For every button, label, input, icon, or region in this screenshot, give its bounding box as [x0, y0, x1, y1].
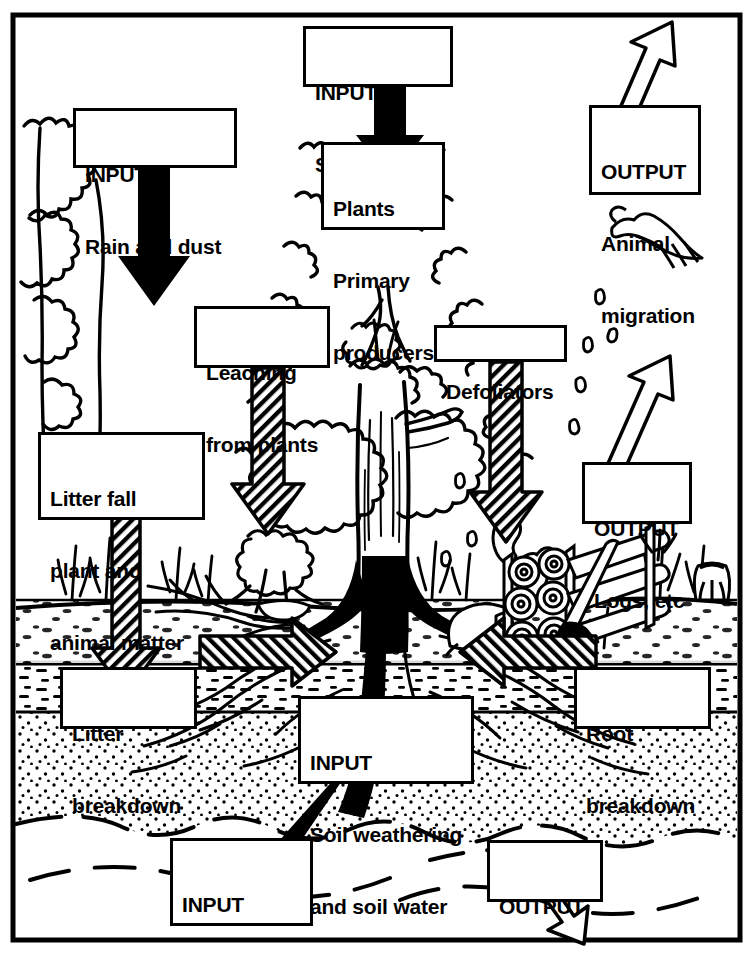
- box-input-soil-weathering[interactable]: INPUT Soil weathering and soil water: [298, 696, 474, 784]
- label-line-1: OUTPUT: [601, 160, 690, 184]
- label-line-2: breakdown: [586, 794, 700, 818]
- box-root-breakdown[interactable]: Root breakdown: [574, 667, 711, 729]
- label-line-1: INPUT: [315, 81, 442, 105]
- label-line-2: Primary: [333, 269, 434, 293]
- tree-stump: [694, 563, 729, 600]
- label-line-1: Leaching: [206, 361, 319, 385]
- label-line-1: Plants: [333, 197, 434, 221]
- label-line-1: INPUT: [310, 751, 463, 775]
- label-line-1: INPUT: [85, 163, 226, 187]
- label-line-2: breakdown: [72, 794, 186, 818]
- ecosystem-diagram: INPUT Solar energy Plants Primary produc…: [0, 0, 752, 969]
- label-line-1: OUTPUT: [594, 517, 681, 541]
- label-line-2: plant and: [50, 559, 194, 583]
- box-output-animal-migration[interactable]: OUTPUT Animal migration: [589, 105, 701, 195]
- box-input-rock-weathering[interactable]: INPUT Rock weathering: [170, 838, 313, 926]
- box-plants-primary-producers[interactable]: Plants Primary producers: [321, 142, 445, 230]
- box-output-logs-etc[interactable]: OUTPUT Logs, etc: [582, 462, 692, 524]
- label-line-3: migration: [601, 304, 690, 328]
- box-leaching-from-plants[interactable]: Leaching from plants: [194, 306, 330, 368]
- box-input-solar-energy[interactable]: INPUT Solar energy: [303, 26, 453, 87]
- label-line-1: INPUT: [182, 893, 302, 917]
- label-line-2: Rock: [182, 965, 302, 969]
- label-line-2: Soil weathering: [310, 823, 463, 847]
- box-input-rain-and-dust[interactable]: INPUT Rain and dust: [73, 108, 237, 168]
- box-output-drainage[interactable]: OUTPUT Drainage: [487, 840, 603, 902]
- arrow-logs-etc: [606, 356, 673, 478]
- label-line-1: Defoliators: [446, 380, 556, 404]
- label-line-1: Litter: [72, 722, 186, 746]
- box-defoliators[interactable]: Defoliators: [434, 325, 567, 362]
- label-line-2: Logs, etc: [594, 589, 681, 613]
- label-line-2: Animal: [601, 232, 690, 256]
- box-litter-fall[interactable]: Litter fall plant and animal matter: [38, 432, 205, 520]
- label-line-3: and soil water: [310, 895, 463, 919]
- label-line-1: OUTPUT: [499, 895, 592, 919]
- label-line-1: Root: [586, 722, 700, 746]
- label-line-1: Litter fall: [50, 487, 194, 511]
- label-line-3: animal matter: [50, 631, 194, 655]
- label-line-2: from plants: [206, 433, 319, 457]
- label-line-3: producers: [333, 341, 434, 365]
- label-line-2: Rain and dust: [85, 235, 226, 259]
- box-litter-breakdown[interactable]: Litter breakdown: [60, 667, 197, 729]
